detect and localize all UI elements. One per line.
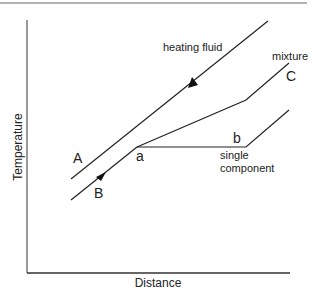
process-stream-arrow-icon	[96, 172, 106, 181]
x-axis-label: Distance	[135, 276, 182, 290]
curve-label-b-upper: B	[94, 185, 103, 201]
single-component-line	[137, 110, 289, 147]
single-component-label-line2: component	[220, 162, 274, 174]
mixture-line	[137, 63, 289, 147]
point-label-b: b	[233, 130, 241, 146]
mixture-label: mixture	[272, 50, 308, 62]
temperature-distance-diagram: Distance Temperature heating fluid A B a…	[0, 0, 318, 299]
heating-fluid-label: heating fluid	[163, 41, 222, 53]
curve-label-c-upper: C	[286, 68, 296, 84]
single-component-label-line1: single	[220, 149, 249, 161]
point-label-a: a	[136, 148, 144, 164]
curve-label-a-upper: A	[73, 150, 83, 166]
y-axis-label: Temperature	[11, 113, 25, 181]
